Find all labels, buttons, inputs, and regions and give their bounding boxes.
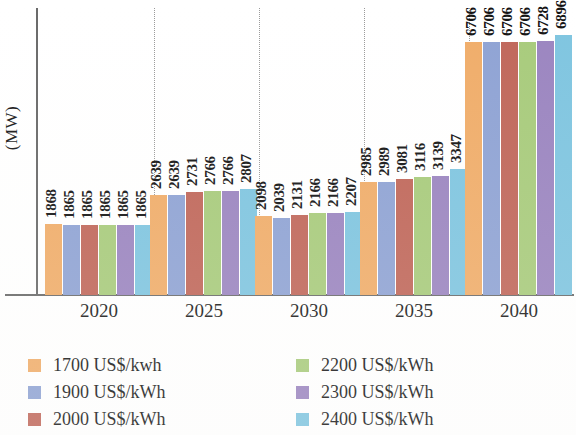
legend-label: 1700 US$/kwh <box>53 355 162 376</box>
bar[interactable] <box>537 41 554 295</box>
bar-slot: 2639 <box>168 8 185 295</box>
bar-value-label: 3139 <box>430 141 447 170</box>
legend-item[interactable]: 2400 US$/kWh <box>296 409 564 430</box>
bar-value-label: 1865 <box>97 190 114 219</box>
bar-group-bars: 298529893081311631393347 <box>360 8 467 295</box>
bar[interactable] <box>519 42 536 295</box>
bar[interactable] <box>186 192 203 295</box>
bar-slot: 2039 <box>273 8 290 295</box>
bar[interactable] <box>327 213 344 295</box>
bar-value-label: 6706 <box>517 7 534 36</box>
bar-slot: 2131 <box>291 8 308 295</box>
bar-value-label: 2207 <box>343 177 360 206</box>
bar-slot: 2639 <box>150 8 167 295</box>
bar[interactable] <box>45 224 62 295</box>
legend-swatch-icon <box>296 359 309 372</box>
bar[interactable] <box>378 182 395 295</box>
bar-value-label: 2766 <box>202 156 219 185</box>
bar-slot: 2766 <box>222 8 239 295</box>
bar[interactable] <box>555 35 572 295</box>
bar-value-label: 1868 <box>43 189 60 218</box>
bar[interactable] <box>168 195 185 295</box>
bar[interactable] <box>117 225 134 295</box>
bar-value-label: 2766 <box>220 156 237 185</box>
bar[interactable] <box>501 42 518 295</box>
bar[interactable] <box>414 177 431 295</box>
legend-item[interactable]: 2200 US$/kWh <box>296 355 564 376</box>
bar-slot: 2098 <box>255 8 272 295</box>
bar-slot: 1865 <box>117 8 134 295</box>
bar[interactable] <box>204 191 221 295</box>
legend-swatch-icon <box>28 386 41 399</box>
bar[interactable] <box>99 225 116 295</box>
bar-value-label: 1865 <box>115 190 132 219</box>
bar-slot: 6706 <box>465 8 482 295</box>
bar-value-label: 6728 <box>535 6 552 35</box>
bar-value-label: 1865 <box>61 190 78 219</box>
bar-value-label: 3081 <box>394 144 411 173</box>
bar[interactable] <box>63 225 80 295</box>
bar-value-label: 6706 <box>481 7 498 36</box>
bar[interactable] <box>465 42 482 295</box>
bar-group-bars: 186818651865186518651865 <box>45 8 152 295</box>
bar-slot: 2989 <box>378 8 395 295</box>
legend-item[interactable]: 2000 US$/kWh <box>28 409 296 430</box>
bar[interactable] <box>309 213 326 295</box>
bar-value-label: 2985 <box>358 147 375 176</box>
bar-slot: 2166 <box>327 8 344 295</box>
legend-label: 2400 US$/kWh <box>321 409 434 430</box>
bar-group-bars: 263926392731276627662807 <box>150 8 257 295</box>
bar-slot: 2731 <box>186 8 203 295</box>
bar-slot: 3081 <box>396 8 413 295</box>
x-tick-label: 2025 <box>159 300 249 322</box>
bar[interactable] <box>81 225 98 295</box>
bar-group: 298529893081311631393347 <box>360 8 468 295</box>
bar-value-label: 2166 <box>307 178 324 207</box>
bar-value-label: 2989 <box>376 147 393 176</box>
bar-value-label: 3347 <box>448 134 465 163</box>
legend-item[interactable]: 2300 US$/kWh <box>296 382 564 403</box>
bar[interactable] <box>432 176 449 295</box>
bar-slot: 6706 <box>483 8 500 295</box>
bar[interactable] <box>150 195 167 295</box>
bar-value-label: 6706 <box>499 7 516 36</box>
bar-slot: 2985 <box>360 8 377 295</box>
legend-swatch-icon <box>296 413 309 426</box>
bar-slot: 1865 <box>63 8 80 295</box>
legend-label: 1900 US$/kWh <box>53 382 166 403</box>
x-tick-label: 2040 <box>474 300 564 322</box>
bar-group: 186818651865186518651865 <box>45 8 153 295</box>
legend-swatch-icon <box>28 413 41 426</box>
bar-group: 670667066706670667286896 <box>465 8 573 295</box>
legend-item[interactable]: 1900 US$/kWh <box>28 382 296 403</box>
bar-value-label: 6896 <box>553 0 570 29</box>
bar-slot: 6706 <box>501 8 518 295</box>
legend-swatch-icon <box>28 359 41 372</box>
bar-slot: 6706 <box>519 8 536 295</box>
legend-label: 2000 US$/kWh <box>53 409 166 430</box>
bar-value-label: 2098 <box>253 181 270 210</box>
bar[interactable] <box>483 42 500 295</box>
bar[interactable] <box>255 216 272 295</box>
bar-group-bars: 209820392131216621662207 <box>255 8 362 295</box>
legend-label: 2200 US$/kWh <box>321 355 434 376</box>
bar[interactable] <box>291 215 308 295</box>
bar[interactable] <box>222 191 239 295</box>
bar-group-bars: 670667066706670667286896 <box>465 8 572 295</box>
bar[interactable] <box>273 218 290 295</box>
x-tick-label: 2035 <box>369 300 459 322</box>
bar-slot: 1868 <box>45 8 62 295</box>
bar-value-label: 1865 <box>133 190 150 219</box>
bar-value-label: 3116 <box>412 143 429 171</box>
bar-value-label: 2807 <box>238 154 255 183</box>
bar[interactable] <box>396 179 413 295</box>
legend-item[interactable]: 1700 US$/kwh <box>28 355 296 376</box>
bar-chart-figure: (MW) 18681865186518651865186526392639273… <box>0 0 576 435</box>
bar-slot: 2166 <box>309 8 326 295</box>
chart-legend: 1700 US$/kwh2200 US$/kWh1900 US$/kWh2300… <box>28 352 558 433</box>
bar-value-label: 1865 <box>79 190 96 219</box>
legend-swatch-icon <box>296 386 309 399</box>
bar-slot: 2766 <box>204 8 221 295</box>
bar[interactable] <box>360 182 377 295</box>
bar-slot: 3139 <box>432 8 449 295</box>
